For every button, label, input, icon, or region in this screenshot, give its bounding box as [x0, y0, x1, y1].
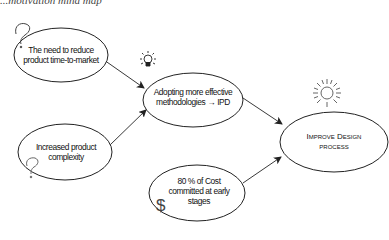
node-label-line: stages	[168, 196, 229, 206]
node-label-line: methodologies → IPD	[154, 97, 233, 107]
node-label-complexity: Increased product complexity	[36, 142, 96, 162]
node-label-line: Improve Design	[307, 132, 362, 142]
node-label-ipd: Adopting more effective methodologies → …	[154, 87, 233, 107]
node-label-line: process	[307, 142, 362, 152]
node-label-goal: Improve Design process	[307, 132, 362, 152]
node-label-line: Adopting more effective	[154, 87, 233, 97]
sun-icon	[313, 79, 341, 107]
node-label-time-to-market: The need to reduce product time-to-marke…	[23, 45, 98, 65]
node-label-line: complexity	[36, 152, 96, 162]
node-label-line: product time-to-market	[23, 55, 98, 65]
node-label-line: committed at early	[168, 186, 229, 196]
lightbulb-icon	[140, 51, 156, 66]
node-label-line: Increased product	[36, 142, 96, 152]
node-label-line: The need to reduce	[23, 45, 98, 55]
node-label-cost: 80 % of Cost committed at early stages	[168, 176, 229, 206]
edge-complexity-to-ipd	[110, 110, 146, 145]
node-label-line: 80 % of Cost	[168, 176, 229, 186]
edge-cost-to-goal	[243, 157, 281, 183]
dollar-icon: $	[156, 197, 165, 214]
edge-ipd-to-goal	[243, 98, 282, 124]
edge-time-to-market-to-ipd	[104, 60, 144, 88]
